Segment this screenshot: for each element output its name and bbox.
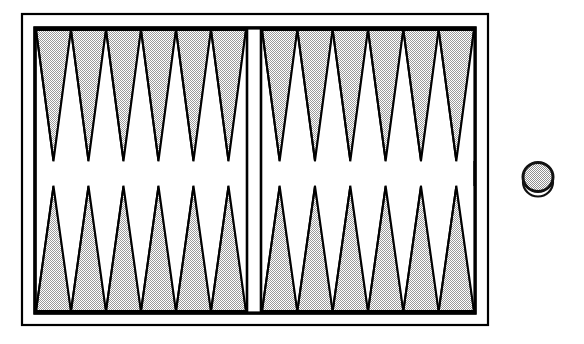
backgammon-board-figure [0, 0, 584, 344]
board-center-bar [246, 28, 262, 313]
center-bar-surface[interactable] [246, 28, 262, 313]
figure-root: Backgammon board diagram [0, 0, 584, 344]
checker-face[interactable] [523, 163, 553, 192]
checker-group[interactable] [523, 163, 553, 197]
